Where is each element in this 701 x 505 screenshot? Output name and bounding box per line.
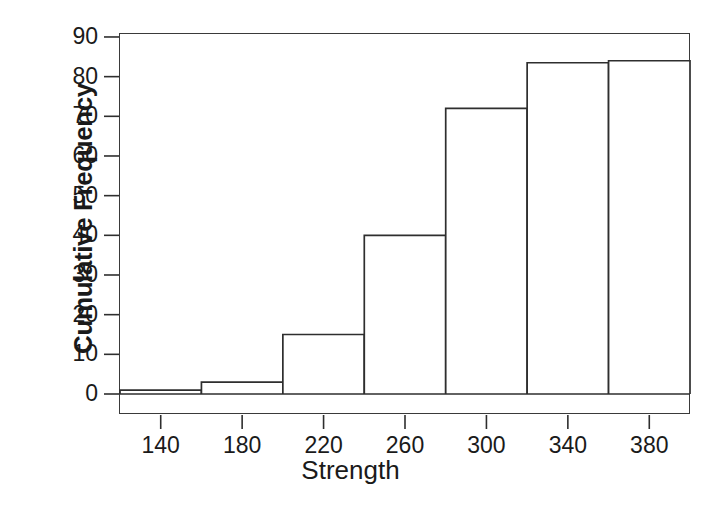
y-tick-label: 50 bbox=[36, 184, 98, 207]
bar bbox=[527, 63, 608, 394]
bar bbox=[364, 235, 445, 394]
x-tick-label: 180 bbox=[207, 434, 277, 457]
y-tick-label: 40 bbox=[36, 223, 98, 246]
chart-figure: Cumulative Frequency 0102030405060708090… bbox=[0, 0, 701, 505]
bar bbox=[283, 334, 364, 394]
x-tick-label: 340 bbox=[533, 434, 603, 457]
x-tick-label: 220 bbox=[289, 434, 359, 457]
y-tick-label: 20 bbox=[36, 303, 98, 326]
y-tick-label: 60 bbox=[36, 144, 98, 167]
y-tick-label: 70 bbox=[36, 104, 98, 127]
x-tick-label: 380 bbox=[614, 434, 684, 457]
x-tick-label: 140 bbox=[126, 434, 196, 457]
y-tick-label: 80 bbox=[36, 65, 98, 88]
x-tick-marks bbox=[161, 415, 650, 429]
chart-canvas bbox=[0, 0, 701, 505]
bars-group bbox=[120, 61, 690, 394]
y-tick-label: 90 bbox=[36, 25, 98, 48]
y-tick-marks bbox=[104, 37, 119, 394]
x-tick-label: 260 bbox=[370, 434, 440, 457]
y-tick-label: 30 bbox=[36, 263, 98, 286]
bar bbox=[609, 61, 690, 394]
x-tick-label: 300 bbox=[451, 434, 521, 457]
bar bbox=[446, 108, 527, 394]
x-axis-title: Strength bbox=[0, 455, 701, 486]
y-tick-label: 10 bbox=[36, 342, 98, 365]
y-tick-label: 0 bbox=[36, 382, 98, 405]
bar bbox=[201, 382, 282, 394]
